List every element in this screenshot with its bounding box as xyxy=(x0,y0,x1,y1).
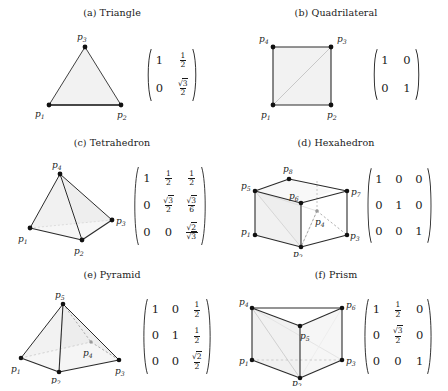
matrix-cell: 12 xyxy=(394,302,403,319)
vertex-label-p2: p2 xyxy=(51,375,61,384)
vertex-label-p3: p3 xyxy=(346,356,356,367)
matrix-pyramid: 1 0 12 0 1 12 0 0 √22 xyxy=(141,298,213,375)
paren-right xyxy=(427,298,434,375)
matrix-prism: 1 12 0 0 √32 0 0 0 1 xyxy=(362,298,434,375)
figure-grid: (a) Triangle p1 p2 p3 xyxy=(0,0,448,391)
matrix-cell: 12 xyxy=(193,302,202,319)
matrix-cell: 1 xyxy=(415,354,424,371)
paren-left xyxy=(371,48,378,101)
matrix-cell: 12 xyxy=(187,170,196,187)
vertex-label-p5: p5 xyxy=(55,290,65,301)
subcaption-triangle: (a) Triangle xyxy=(83,7,141,18)
matrix-cell: 0 xyxy=(403,52,412,69)
matrix-cell: 0 xyxy=(151,328,160,345)
matrix-cell: √2√3 xyxy=(186,224,198,241)
paren-right xyxy=(192,48,199,102)
matrix-cell: 0 xyxy=(142,224,151,241)
matrix-cell: 0 xyxy=(142,197,151,214)
subcaption-hexahedron: (d) Hexahedron xyxy=(297,137,374,148)
matrix-cell: 0 xyxy=(372,328,381,345)
paren-left xyxy=(141,298,148,375)
matrix-cell: 0 xyxy=(171,302,180,319)
shape-hexahedron: p1 p2 p3 p4 p5 p6 p7 p8 xyxy=(239,155,365,257)
panel-hexahedron: (d) Hexahedron xyxy=(224,130,448,262)
subcaption-quadrilateral: (b) Quadrilateral xyxy=(295,7,378,18)
matrix-cell: 0 xyxy=(415,302,424,319)
vertex-label-p2: p2 xyxy=(293,249,303,257)
matrix-cell: 0 xyxy=(395,223,404,240)
paren-right xyxy=(415,48,422,101)
matrix-cell: 0 xyxy=(394,354,403,371)
vertex-label-p3: p3 xyxy=(77,32,87,43)
matrix-cell: 0 xyxy=(415,197,424,214)
vertex-label-p2: p2 xyxy=(74,246,84,256)
vertex-label-p3: p3 xyxy=(115,366,125,377)
paren-right xyxy=(427,167,434,244)
panel-prism: (f) Prism xyxy=(224,262,448,391)
matrix-cell: 1 xyxy=(395,197,404,214)
matrix-cell: √32 xyxy=(162,197,174,214)
panel-triangle: (a) Triangle p1 p2 p3 xyxy=(0,0,224,130)
vertex-label-p1: p1 xyxy=(11,364,21,375)
matrix-cell: √36 xyxy=(186,197,198,214)
vertex-label-p3: p3 xyxy=(350,231,360,242)
matrix-cell: 1 xyxy=(375,171,384,188)
panel-body-hexahedron: p1 p2 p3 p4 p5 p6 p7 p8 1 0 xyxy=(224,149,448,262)
vertex-label-p1: p1 xyxy=(261,110,271,121)
vertex-label-p3: p3 xyxy=(116,216,126,227)
matrix-cell: 1 xyxy=(415,223,424,240)
panel-body-quadrilateral: p1 p2 p3 p4 1 0 0 1 xyxy=(224,19,448,130)
vertex-label-p8: p8 xyxy=(283,164,293,175)
matrix-cell: √32 xyxy=(392,328,404,345)
shape-pyramid: p1 p2 p3 p4 p5 xyxy=(11,288,141,384)
subcaption-pyramid: (e) Pyramid xyxy=(83,269,140,280)
vertex-label-p1: p1 xyxy=(35,109,45,120)
paren-right xyxy=(201,166,208,246)
matrix-cell: 1 xyxy=(142,170,151,187)
shape-triangle: p1 p2 p3 xyxy=(25,27,145,123)
matrix-cell: 0 xyxy=(375,223,384,240)
shape-quadrilateral: p1 p2 p3 p4 xyxy=(251,27,371,123)
matrix-quadrilateral: 1 0 0 1 xyxy=(371,48,422,101)
vertex-label-p2: p2 xyxy=(327,110,337,121)
matrix-cell: 12 xyxy=(179,52,188,69)
matrix-cell: 0 xyxy=(171,354,180,371)
vertex-label-p5: p5 xyxy=(241,181,251,192)
vertex-label-p3: p3 xyxy=(337,34,347,45)
matrix-cell: 0 xyxy=(164,224,173,241)
matrix-cell: 1 xyxy=(171,328,180,345)
panel-pyramid: (e) Pyramid xyxy=(0,262,224,391)
panel-body-pyramid: p1 p2 p3 p4 p5 1 0 12 xyxy=(0,281,224,391)
panel-tetrahedron: (c) Tetrahedron p1 xyxy=(0,130,224,262)
matrix-cell: √32 xyxy=(177,80,189,97)
vertex-label-p4: p4 xyxy=(239,297,249,308)
matrix-cell: 1 xyxy=(372,302,381,319)
subcaption-tetrahedron: (c) Tetrahedron xyxy=(74,137,151,148)
shape-prism: p1 p2 p3 p4 p5 p6 xyxy=(238,286,362,386)
matrix-cell: 0 xyxy=(375,197,384,214)
panel-quadrilateral: (b) Quadrilateral p1 p2 p3 p4 xyxy=(224,0,448,130)
matrix-cell: 0 xyxy=(415,328,424,345)
matrix-triangle: 1 12 0 √32 xyxy=(145,48,199,102)
matrix-cell: 0 xyxy=(151,354,160,371)
vertex-label-p6: p6 xyxy=(346,300,356,311)
paren-left xyxy=(365,167,372,244)
paren-left xyxy=(145,48,152,102)
panel-body-tetrahedron: p1 p2 p3 p4 1 12 xyxy=(0,149,224,262)
subcaption-prism: (f) Prism xyxy=(315,269,358,280)
vertex-label-p4: p4 xyxy=(259,34,269,45)
paren-left xyxy=(362,298,369,375)
matrix-cell: 0 xyxy=(381,80,390,97)
matrix-cell: 1 xyxy=(381,52,390,69)
vertex-label-p4: p4 xyxy=(315,217,325,228)
matrix-cell: 0 xyxy=(415,171,424,188)
matrix-cell: 0 xyxy=(395,171,404,188)
vertex-label-p1: p1 xyxy=(18,234,28,245)
matrix-cell: 0 xyxy=(372,354,381,371)
vertex-label-p7: p7 xyxy=(351,187,361,198)
matrix-cell: 1 xyxy=(151,302,160,319)
matrix-cell: 1 xyxy=(155,52,164,69)
paren-right xyxy=(206,298,213,375)
vertex-label-p2: p2 xyxy=(117,110,127,121)
panel-body-triangle: p1 p2 p3 1 12 0 xyxy=(0,19,224,130)
